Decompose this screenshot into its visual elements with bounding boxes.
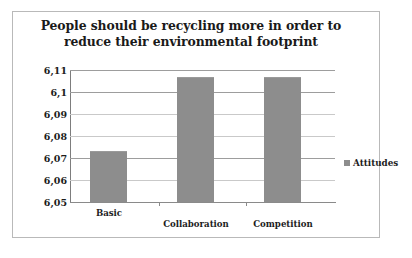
bar-basic[interactable] — [90, 151, 127, 202]
x-axis-line — [70, 202, 336, 203]
bar-competition[interactable] — [264, 77, 301, 202]
chart-frame: People should be recycling more in order… — [12, 11, 380, 238]
legend-label-attitudes: Attitudes — [353, 158, 398, 168]
y-axis-tick-labels: 6,11 6,1 6,09 6,08 6,07 6,06 6,05 — [23, 70, 67, 202]
x-label-competition: Competition — [253, 219, 313, 229]
x-label-collaboration: Collaboration — [163, 219, 229, 229]
y-tick-label-610: 6,1 — [27, 87, 67, 98]
y-tick-label-611: 6,11 — [27, 65, 67, 76]
chart-title: People should be recycling more in order… — [31, 18, 351, 50]
legend-swatch-icon — [344, 160, 350, 166]
plot-area — [70, 70, 335, 202]
y-tick-label-608: 6,08 — [27, 131, 67, 142]
bar-collaboration[interactable] — [177, 77, 214, 202]
chart-title-line-1: People should be recycling more in order… — [31, 18, 351, 34]
gridline-611 — [70, 70, 335, 71]
x-tick-mark-1 — [159, 202, 160, 206]
x-label-basic: Basic — [96, 208, 122, 218]
y-tick-label-607: 6,07 — [27, 153, 67, 164]
y-tick-label-606: 6,06 — [27, 175, 67, 186]
x-tick-mark-2 — [246, 202, 247, 206]
y-tick-label-605: 6,05 — [27, 197, 67, 208]
chart-legend: Attitudes — [344, 158, 398, 168]
chart-title-line-2: reduce their environmental footprint — [31, 34, 351, 50]
y-tick-label-609: 6,09 — [27, 109, 67, 120]
